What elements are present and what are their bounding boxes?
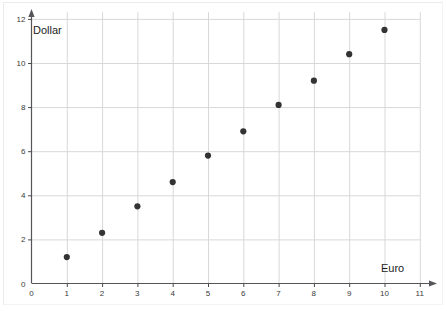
x-tick-label: 11 [416,289,425,298]
x-tick-label: 5 [206,289,211,298]
data-point [134,203,140,209]
x-tick-label: 6 [241,289,246,298]
data-point [64,254,70,260]
x-tick-label: 0 [29,289,34,298]
scatter-plot-figure: 01234567891011 024681012 Dollar Euro [0,0,447,312]
data-point [381,27,387,33]
x-axis-arrowhead [429,280,437,286]
y-axis-arrowhead [28,9,34,17]
data-point [276,102,282,108]
x-axis-title: Euro [381,262,404,274]
data-point [311,78,317,84]
y-gridlines [32,19,420,240]
x-tick-label: 10 [380,289,389,298]
axis-lines [28,9,437,287]
plot-canvas [0,0,447,312]
x-tick-label: 1 [65,289,70,298]
x-tick-label: 8 [312,289,317,298]
x-tick-label: 2 [100,289,105,298]
y-tick-label: 2 [0,235,26,244]
data-point [346,51,352,57]
y-tick-label: 4 [0,191,26,200]
y-tick-label: 0 [0,279,26,288]
x-gridlines [67,12,420,283]
y-tick-label: 12 [0,14,26,23]
data-point [240,128,246,134]
y-axis-title: Dollar [33,24,62,36]
y-tick-label: 10 [0,59,26,68]
y-tick-label: 8 [0,103,26,112]
x-tick-label: 3 [135,289,140,298]
y-tick-label: 6 [0,147,26,156]
x-tick-label: 9 [347,289,352,298]
x-tick-label: 4 [170,289,175,298]
data-point [99,230,105,236]
data-point [205,153,211,159]
data-point [170,179,176,185]
x-tick-label: 7 [276,289,281,298]
data-point-group [64,27,388,260]
